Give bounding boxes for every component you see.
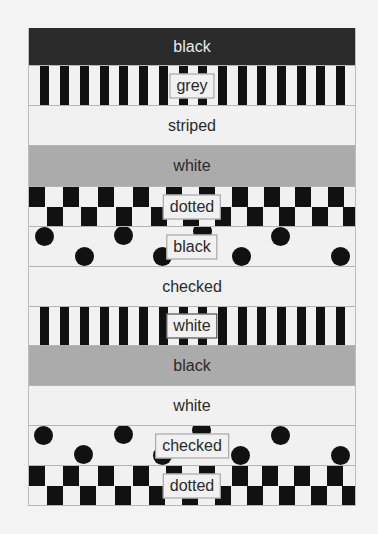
stripe <box>297 66 306 105</box>
band-label: black <box>173 39 210 55</box>
checker-square <box>63 466 79 486</box>
dot <box>271 426 290 445</box>
dot <box>75 247 94 266</box>
checker-square <box>262 466 278 486</box>
checker-square <box>116 207 132 227</box>
stripe <box>316 66 325 105</box>
band-white-solid: striped <box>29 106 355 146</box>
dot <box>74 445 93 464</box>
stripe <box>238 66 247 105</box>
band-label: white <box>166 314 217 339</box>
checker-square <box>232 187 248 207</box>
stripe <box>119 307 128 345</box>
band-label: dotted <box>163 194 221 219</box>
checker-square <box>295 187 311 207</box>
checker-square <box>327 466 343 486</box>
dot <box>114 426 133 444</box>
dot <box>271 227 290 246</box>
stripe <box>100 66 109 105</box>
checker-square <box>29 466 45 486</box>
band-label: checked <box>155 433 229 458</box>
checker-square <box>342 486 355 506</box>
band-white-solid: white <box>29 386 355 426</box>
checker-square <box>47 486 63 506</box>
stripe <box>40 66 49 105</box>
checker-square <box>63 187 79 207</box>
stripe <box>218 307 227 345</box>
checker-square <box>133 187 149 207</box>
checker-square <box>328 187 344 207</box>
band-label: grey <box>169 73 214 98</box>
stripe <box>40 307 49 345</box>
stripe <box>119 66 128 105</box>
pattern-panel: black grey striped white <box>28 28 356 506</box>
band-label: dotted <box>163 473 221 498</box>
stripe <box>60 307 69 345</box>
checker-square <box>279 486 295 506</box>
stripe <box>257 307 266 345</box>
band-label: black <box>166 234 217 259</box>
band-dotted: black <box>29 227 355 267</box>
band-label: white <box>173 158 210 174</box>
stripe <box>139 66 148 105</box>
checker-square <box>311 486 327 506</box>
dot <box>331 247 350 266</box>
checker-square <box>81 207 97 227</box>
band-white-solid: checked <box>29 267 355 307</box>
stripe <box>336 307 345 345</box>
stripe <box>159 66 168 105</box>
checker-square <box>247 207 263 227</box>
checker-square <box>115 486 131 506</box>
stripe <box>238 307 247 345</box>
dot <box>34 426 53 445</box>
checker-square <box>98 187 114 207</box>
checker-square <box>232 466 248 486</box>
band-grey-solid: white <box>29 146 355 187</box>
checker-square <box>343 207 355 227</box>
checker-square <box>247 486 263 506</box>
band-checked: dotted <box>29 466 355 506</box>
dot <box>231 446 250 465</box>
checker-square <box>47 207 63 227</box>
band-label: checked <box>162 279 222 295</box>
checker-square <box>294 466 310 486</box>
dot <box>331 446 350 465</box>
band-label: white <box>173 398 210 414</box>
checker-square <box>312 207 328 227</box>
band-label: striped <box>168 118 216 134</box>
band-dotted: checked <box>29 426 355 466</box>
stripe <box>60 66 69 105</box>
stripe <box>336 66 345 105</box>
band-black-solid: black <box>29 28 355 66</box>
stripe <box>257 66 266 105</box>
stripe <box>316 307 325 345</box>
stripe <box>277 307 286 345</box>
checker-square <box>80 486 96 506</box>
dot <box>114 227 133 245</box>
stripe <box>277 66 286 105</box>
band-grey-solid: black <box>29 346 355 386</box>
stripe <box>80 307 89 345</box>
dot <box>232 247 251 266</box>
checker-square <box>279 207 295 227</box>
stripe <box>100 307 109 345</box>
checker-square <box>98 466 114 486</box>
stripe <box>80 66 89 105</box>
stripe <box>297 307 306 345</box>
band-striped: white <box>29 307 355 346</box>
band-checked: dotted <box>29 187 355 227</box>
stripe <box>218 66 227 105</box>
checker-square <box>29 187 45 207</box>
dot <box>35 227 54 246</box>
band-label: black <box>173 358 210 374</box>
stripe <box>139 307 148 345</box>
band-striped: grey <box>29 66 355 106</box>
checker-square <box>264 187 280 207</box>
checker-square <box>133 466 149 486</box>
